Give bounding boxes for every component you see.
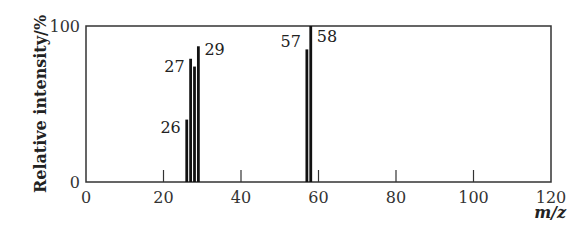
peak-label: 29 xyxy=(204,40,224,59)
y-axis-title: Relative intensity/% xyxy=(31,15,50,193)
x-axis-title: m/z xyxy=(534,203,567,222)
peak-label: 57 xyxy=(281,32,301,51)
peak-bar xyxy=(197,46,200,182)
mass-spectrum-chart: 2627295758 0204060801001200100 Relative … xyxy=(0,0,579,236)
x-tick-label: 20 xyxy=(153,188,173,207)
peak-bar xyxy=(309,26,312,182)
peak-bar xyxy=(305,49,308,182)
y-tick-label: 0 xyxy=(70,173,80,192)
y-tick-label: 100 xyxy=(49,17,80,36)
peak-label: 26 xyxy=(160,118,180,137)
peak-label: 27 xyxy=(164,57,184,76)
x-tick-label: 60 xyxy=(308,188,328,207)
x-tick-label: 40 xyxy=(231,188,251,207)
x-tick-label: 100 xyxy=(458,188,489,207)
x-axis-ticks xyxy=(164,170,474,182)
plot-border xyxy=(86,26,551,182)
peak-bar xyxy=(185,120,188,182)
peak-bar xyxy=(193,67,196,182)
plot-frame xyxy=(86,26,551,182)
peak-bar xyxy=(189,59,192,182)
x-tick-label: 80 xyxy=(386,188,406,207)
peak-label: 58 xyxy=(317,27,337,46)
x-tick-label: 0 xyxy=(81,188,91,207)
